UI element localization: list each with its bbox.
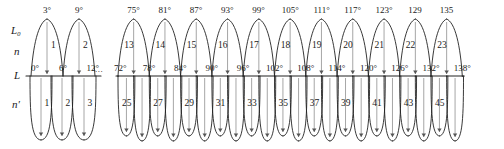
right-upper-number-3: 15 bbox=[187, 41, 197, 51]
right-baseline-angle-3: 84° bbox=[174, 64, 187, 73]
left-upper-number-2: 2 bbox=[83, 41, 88, 51]
right-top-angle-1: 75° bbox=[127, 6, 140, 15]
axis-label-baseline: L bbox=[14, 70, 20, 81]
left-top-angle-1: 3° bbox=[43, 6, 51, 15]
right-top-angle-7: 111° bbox=[313, 6, 329, 15]
right-top-angle-8: 117° bbox=[344, 6, 361, 15]
right-top-angle-6: 105° bbox=[282, 6, 299, 15]
right-top-angle-10: 129 bbox=[408, 6, 422, 15]
lobe-diagram-figure: L₀ n L n′ ... 13°29°0°6°12°1231375°1481°… bbox=[0, 0, 504, 149]
right-upper-number-5: 17 bbox=[249, 41, 259, 51]
right-top-angle-3: 87° bbox=[190, 6, 203, 15]
right-lower-number-4: 31 bbox=[216, 99, 226, 109]
right-upper-number-11: 23 bbox=[437, 41, 447, 51]
left-lower-number-3: 3 bbox=[88, 99, 93, 109]
right-baseline-angle-2: 78° bbox=[143, 64, 156, 73]
left-baseline-angle-3: 12° bbox=[87, 64, 100, 73]
right-baseline-angle-12: 138° bbox=[454, 64, 471, 73]
diagram-canvas bbox=[0, 0, 504, 149]
left-lower-number-2: 2 bbox=[66, 99, 71, 109]
right-top-angle-5: 99° bbox=[252, 6, 265, 15]
right-upper-number-9: 21 bbox=[375, 41, 385, 51]
right-lower-number-11: 45 bbox=[435, 99, 445, 109]
right-baseline-angle-11: 132° bbox=[423, 64, 440, 73]
right-upper-number-7: 19 bbox=[312, 41, 322, 51]
left-upper-number-1: 1 bbox=[51, 41, 56, 51]
right-baseline-angle-10: 126° bbox=[391, 64, 408, 73]
right-lower-number-9: 41 bbox=[372, 99, 382, 109]
left-baseline-angle-2: 6° bbox=[59, 64, 67, 73]
left-lower-number-1: 1 bbox=[45, 99, 50, 109]
right-upper-number-1: 13 bbox=[124, 41, 134, 51]
right-upper-number-8: 20 bbox=[343, 41, 353, 51]
axis-label-upper-order: n bbox=[14, 46, 20, 57]
right-baseline-angle-8: 114° bbox=[329, 64, 346, 73]
right-lower-number-3: 29 bbox=[185, 99, 195, 109]
right-lower-number-5: 33 bbox=[247, 99, 257, 109]
right-lower-number-8: 39 bbox=[341, 99, 351, 109]
left-baseline-angle-1: 0° bbox=[31, 64, 39, 73]
right-top-angle-4: 93° bbox=[221, 6, 234, 15]
right-baseline-angle-1: 72° bbox=[114, 64, 127, 73]
left-top-angle-2: 9° bbox=[75, 6, 83, 15]
right-top-angle-2: 81° bbox=[158, 6, 171, 15]
right-upper-number-2: 14 bbox=[155, 41, 165, 51]
right-baseline-angle-4: 90° bbox=[205, 64, 218, 73]
right-upper-number-6: 18 bbox=[281, 41, 291, 51]
right-baseline-angle-7: 108° bbox=[297, 64, 314, 73]
right-baseline-angle-9: 120° bbox=[360, 64, 377, 73]
right-top-angle-9: 123° bbox=[376, 6, 393, 15]
axis-label-lower-order: n′ bbox=[12, 99, 20, 110]
axis-label-upper-envelope: L₀ bbox=[11, 25, 21, 36]
right-upper-number-4: 16 bbox=[218, 41, 228, 51]
right-lower-number-6: 35 bbox=[278, 99, 288, 109]
right-baseline-angle-5: 96° bbox=[237, 64, 250, 73]
right-top-angle-11: 135 bbox=[440, 6, 454, 15]
right-upper-number-10: 22 bbox=[406, 41, 416, 51]
right-lower-number-2: 27 bbox=[153, 99, 163, 109]
right-baseline-angle-6: 102° bbox=[266, 64, 283, 73]
right-lower-number-7: 37 bbox=[310, 99, 320, 109]
right-lower-number-1: 25 bbox=[122, 99, 132, 109]
right-lower-number-10: 43 bbox=[404, 99, 414, 109]
